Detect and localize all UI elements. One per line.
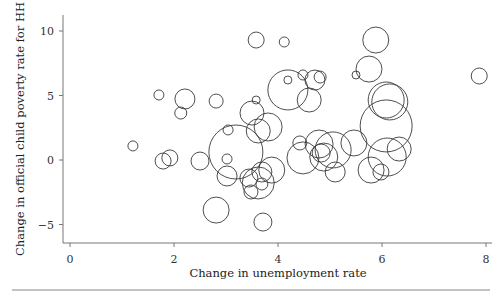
- data-bubble: [471, 68, 487, 84]
- y-tick-label: 0: [47, 154, 54, 167]
- data-bubble: [191, 152, 209, 170]
- x-tick-label: 2: [171, 253, 178, 266]
- data-bubble: [254, 113, 282, 141]
- data-bubble: [312, 144, 330, 162]
- x-axis-title: Change in unemployment rate: [189, 266, 366, 280]
- data-bubble: [279, 37, 289, 47]
- y-axis-title: Change in official child poverty rate fo…: [13, 2, 27, 256]
- y-tick-label: −5: [38, 219, 54, 232]
- data-bubble: [209, 94, 223, 108]
- data-bubble: [256, 178, 268, 190]
- y-tick-label: 5: [47, 90, 54, 103]
- data-bubble: [128, 141, 138, 151]
- bubbles: [128, 27, 487, 231]
- data-bubble: [284, 76, 292, 84]
- data-bubble: [356, 56, 382, 82]
- x-tick-label: 0: [67, 253, 74, 266]
- data-bubble: [203, 197, 229, 223]
- x-tick-label: 8: [483, 253, 490, 266]
- data-bubble: [217, 166, 237, 186]
- data-bubble: [246, 119, 270, 143]
- data-bubble: [358, 157, 384, 183]
- data-bubble: [175, 107, 187, 119]
- x-tick-label: 4: [275, 253, 282, 266]
- bubble-chart: −5051002468 Change in unemployment rate …: [0, 0, 503, 302]
- y-tick-label: 10: [40, 25, 54, 38]
- data-bubble: [222, 154, 232, 164]
- data-bubble: [175, 89, 195, 109]
- data-bubble: [154, 90, 164, 100]
- data-bubble: [363, 27, 389, 53]
- data-bubble: [248, 32, 264, 48]
- data-bubble: [254, 213, 272, 231]
- data-bubble: [341, 130, 367, 156]
- x-tick-label: 6: [379, 253, 386, 266]
- data-bubble: [162, 150, 178, 166]
- data-bubble: [252, 96, 260, 104]
- data-bubble: [360, 100, 412, 152]
- data-bubble: [387, 137, 411, 161]
- data-bubble: [240, 101, 264, 125]
- data-bubble: [155, 153, 171, 169]
- data-bubble: [297, 88, 321, 112]
